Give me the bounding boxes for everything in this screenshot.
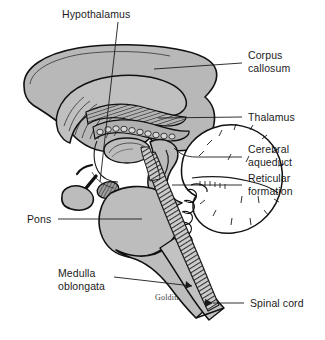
- pituitary-gland: [62, 176, 96, 210]
- label-spinal-cord: Spinal cord: [250, 297, 304, 309]
- label-hypothalamus: Hypothalamus: [62, 8, 130, 20]
- label-thalamus: Thalamus: [248, 111, 295, 123]
- artist-signature: Goldin: [155, 293, 178, 302]
- label-corpus-callosum-line2: callosum: [248, 62, 290, 74]
- label-cerebral-aqueduct-line2: aqueduct: [248, 156, 292, 168]
- brain-anatomy-figure: Hypothalamus Corpus callosum Thalamus Ce…: [0, 0, 325, 340]
- label-cerebral-aqueduct-line1: Cerebral: [248, 143, 289, 155]
- label-reticular-formation-line2: formation: [248, 185, 293, 197]
- label-medulla-line1: Medulla: [58, 267, 96, 279]
- label-reticular-formation-line1: Reticular: [248, 172, 291, 184]
- label-corpus-callosum-line1: Corpus: [248, 49, 282, 61]
- optic-chiasm: [77, 165, 92, 174]
- label-medulla-line2: oblongata: [58, 280, 105, 292]
- label-pons: Pons: [27, 213, 51, 225]
- brain-diagram-canvas: Hypothalamus Corpus callosum Thalamus Ce…: [0, 0, 325, 340]
